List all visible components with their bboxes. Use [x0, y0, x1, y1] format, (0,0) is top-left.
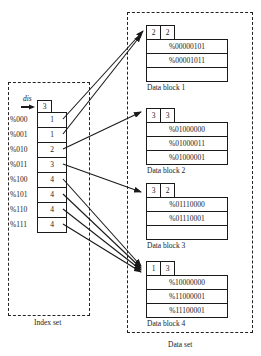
- arrow-110-to-block4: [63, 209, 141, 270]
- arrow-000-to-block1: [63, 31, 143, 119]
- pointer-arrows: [0, 0, 261, 356]
- arrow-010-to-block2: [63, 112, 141, 149]
- arrow-100-to-block4: [63, 179, 141, 266]
- arrow-011-to-block3: [63, 164, 141, 192]
- arrow-001-to-block1: [63, 35, 141, 134]
